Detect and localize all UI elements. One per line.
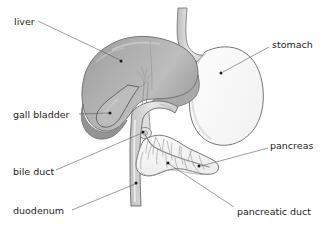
anatomy-diagram: liver stomach gall bladder bile duct duo…	[0, 0, 333, 238]
leader-dot-duodenum	[135, 182, 138, 185]
label-duodenum: duodenum	[13, 205, 64, 216]
label-pancreatic-duct: pancreatic duct	[237, 206, 311, 217]
leader-dot-pancreatic-duct	[167, 162, 170, 165]
diagram-canvas: liver stomach gall bladder bile duct duo…	[0, 0, 333, 238]
label-stomach: stomach	[272, 39, 313, 50]
leader-dot-gall-bladder	[109, 112, 112, 115]
label-pancreas: pancreas	[270, 140, 313, 151]
leader-dot-liver	[120, 60, 123, 63]
leader-line-liver	[38, 21, 120, 60]
leader-dot-bile-duct	[142, 131, 145, 134]
label-gall-bladder: gall bladder	[13, 109, 70, 120]
leader-dot-stomach	[220, 72, 223, 75]
leader-line-pancreas	[201, 148, 268, 166]
label-liver: liver	[14, 16, 35, 27]
label-bile-duct: bile duct	[13, 166, 54, 177]
leader-line-duodenum	[72, 184, 135, 210]
leader-dot-pancreas	[198, 165, 201, 168]
